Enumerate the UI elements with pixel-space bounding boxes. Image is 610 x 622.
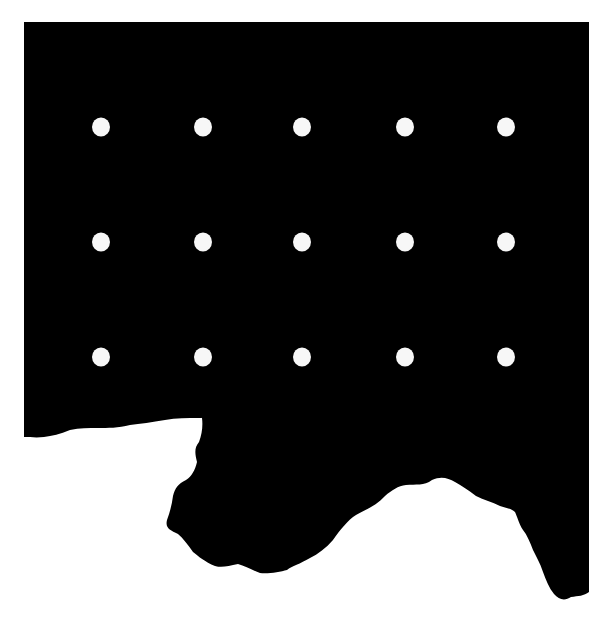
- white-dot: [293, 118, 311, 137]
- figure: [0, 0, 610, 622]
- white-dot: [194, 348, 212, 367]
- white-dot: [92, 118, 110, 137]
- white-dot: [92, 233, 110, 252]
- white-dot: [396, 348, 414, 367]
- white-dot: [497, 118, 515, 137]
- white-dot: [396, 118, 414, 137]
- white-dot: [194, 118, 212, 137]
- white-dot: [92, 348, 110, 367]
- torn-black-shape: [0, 0, 610, 622]
- white-dot: [293, 348, 311, 367]
- white-dot: [396, 233, 414, 252]
- white-dot: [497, 233, 515, 252]
- white-dot: [293, 233, 311, 252]
- white-dot: [194, 233, 212, 252]
- white-dot: [497, 348, 515, 367]
